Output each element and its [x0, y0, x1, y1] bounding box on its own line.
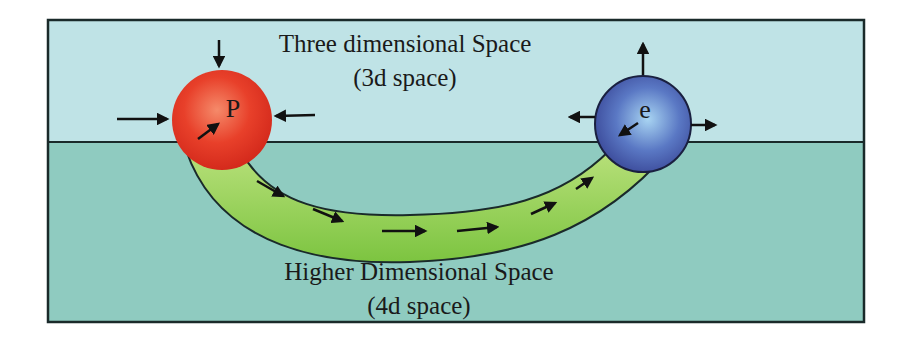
- lower-region-title: Higher Dimensional Space: [284, 258, 553, 285]
- particle-e-label: e: [639, 95, 651, 124]
- upper-region-title: Three dimensional Space: [279, 30, 532, 57]
- particle-p-label: P: [226, 94, 240, 123]
- arrow-left-icon: [276, 115, 315, 116]
- upper-region-subtitle: (3d space): [353, 64, 456, 92]
- lower-region-subtitle: (4d space): [367, 292, 470, 320]
- diagram-canvas: P e Three dimensional Space (3d space) H…: [0, 0, 910, 342]
